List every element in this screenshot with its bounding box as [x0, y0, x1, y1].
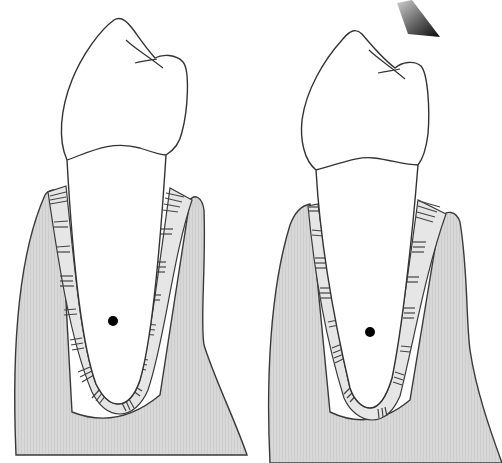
left-panel [15, 18, 247, 455]
force-arrow-icon [397, 0, 440, 37]
center-of-rotation-dot-left [108, 316, 118, 326]
center-of-rotation-dot-right [365, 327, 375, 337]
right-panel [269, 0, 502, 463]
dental-diagram [0, 0, 502, 463]
